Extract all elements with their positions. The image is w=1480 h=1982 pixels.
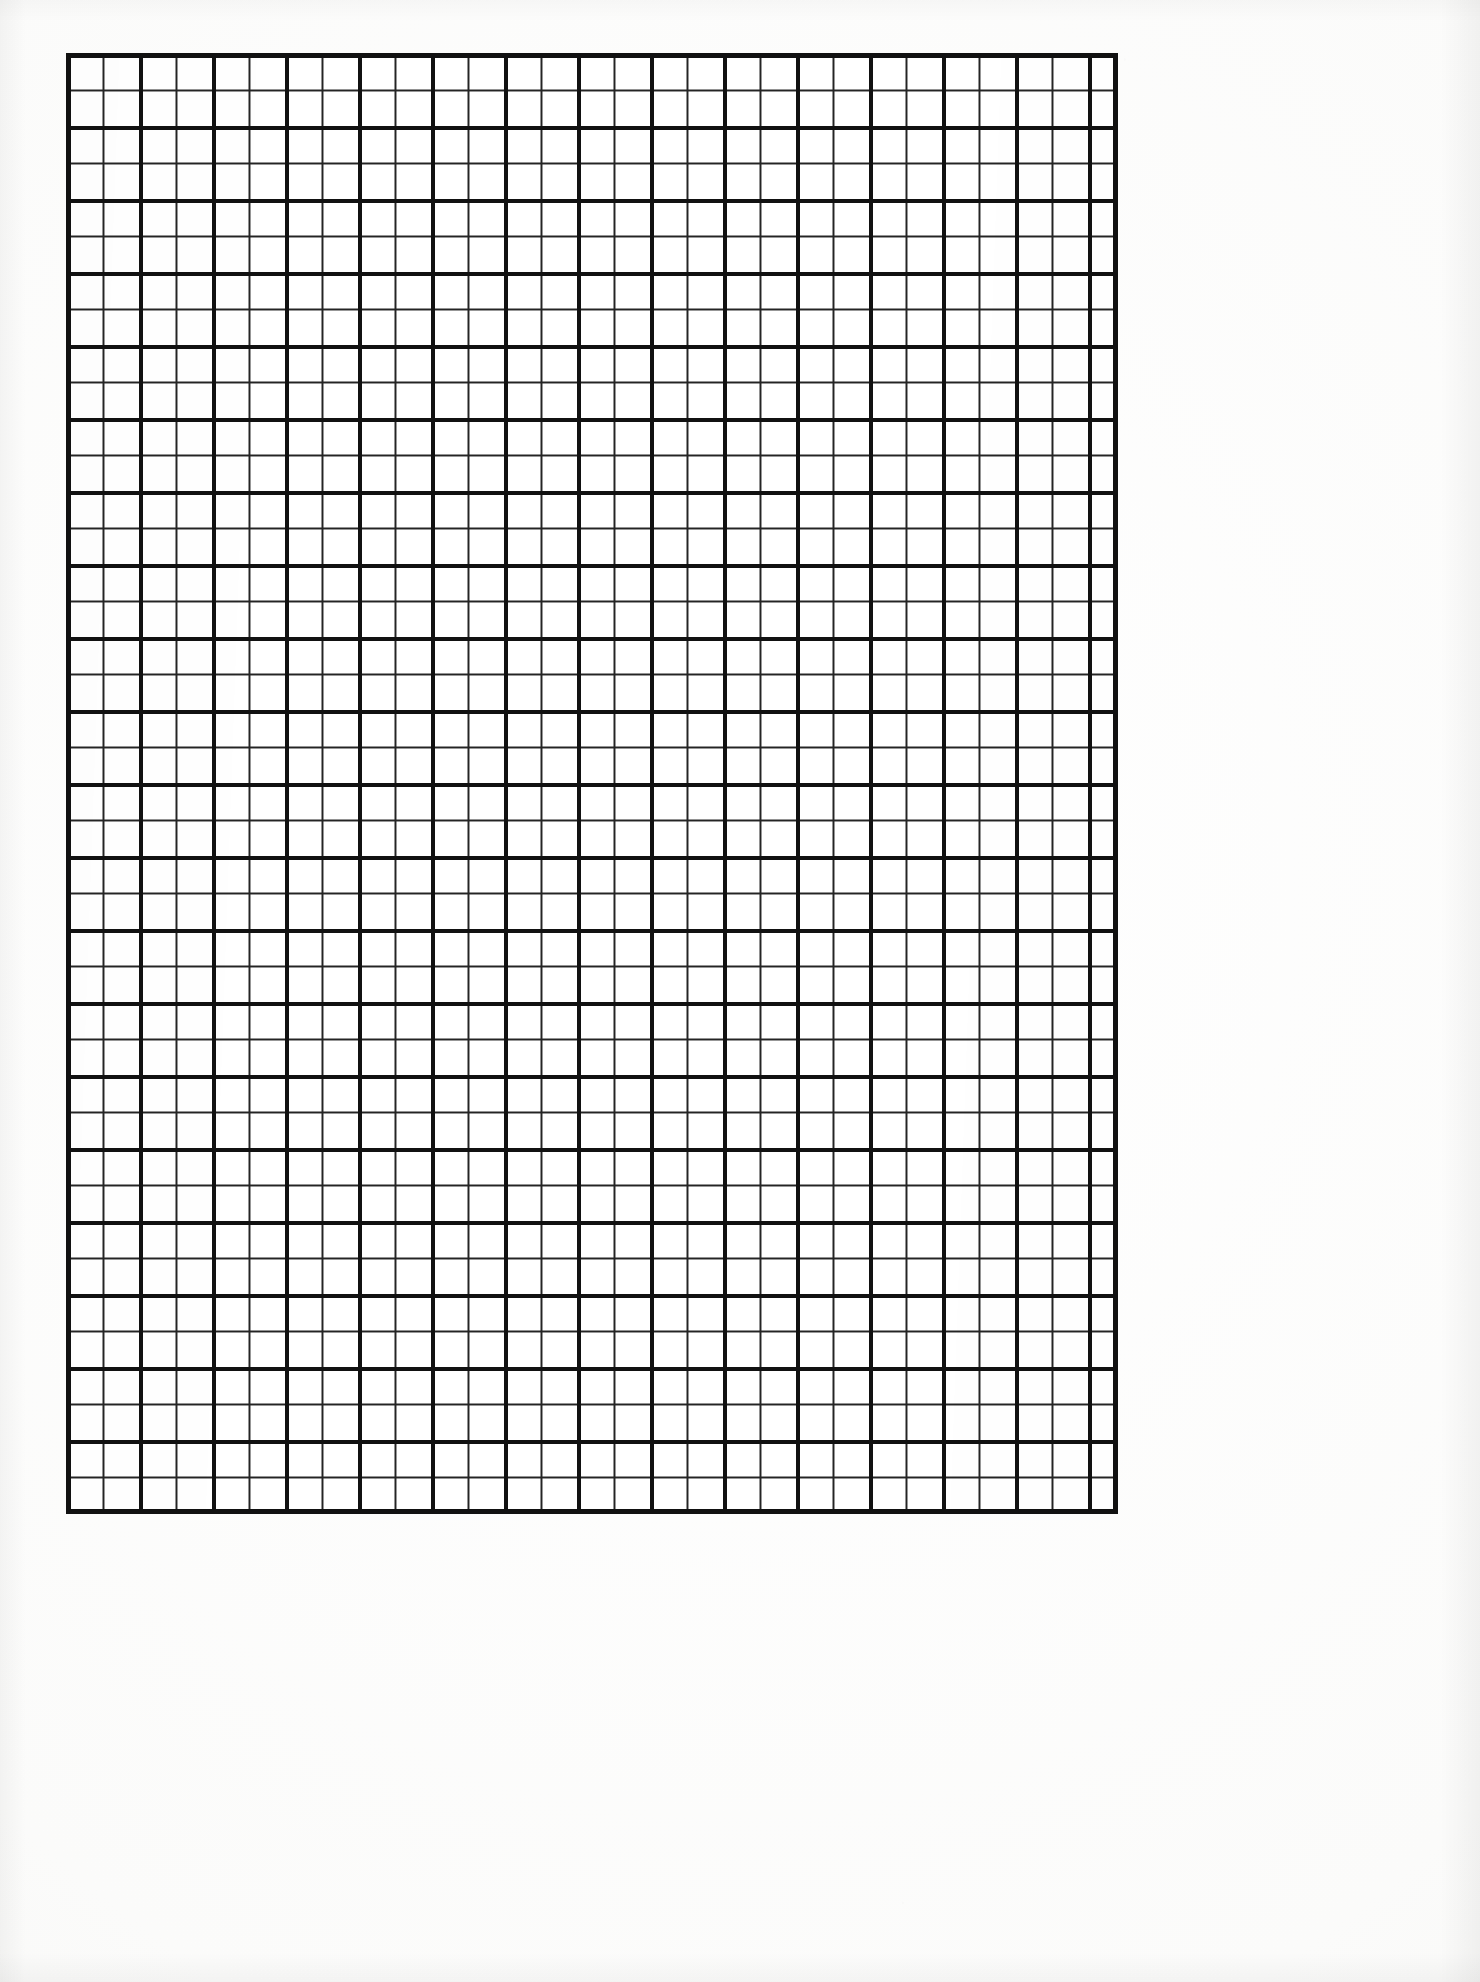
grid-major-lines — [66, 53, 1118, 1514]
quadrille-grid[interactable] — [66, 53, 1118, 1514]
graph-paper-page: Blank Graph Paper Sheet Scanned blank qu… — [0, 0, 1480, 1982]
